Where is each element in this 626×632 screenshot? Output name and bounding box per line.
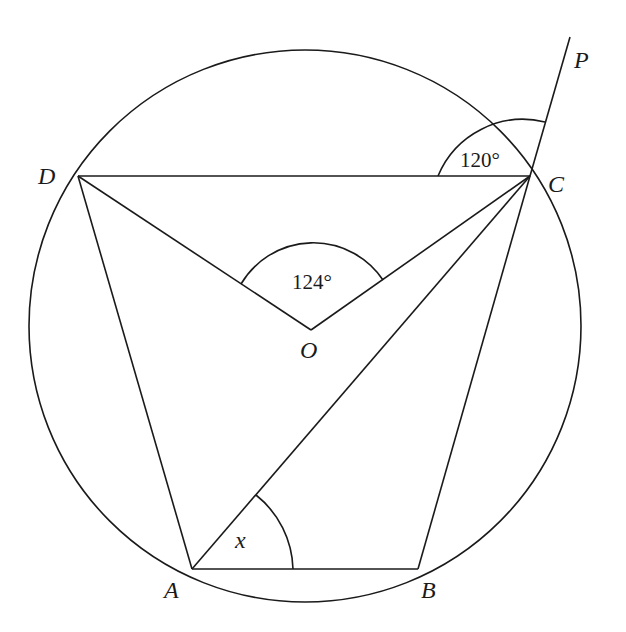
segment-OC bbox=[311, 176, 530, 330]
segment-DA bbox=[78, 176, 192, 569]
label-D: D bbox=[37, 163, 55, 189]
label-O: O bbox=[300, 337, 317, 363]
segment-BC bbox=[418, 176, 530, 569]
angle-arc-CAB bbox=[256, 495, 293, 569]
label-C: C bbox=[548, 171, 565, 197]
label-B: B bbox=[421, 577, 436, 603]
geometry-diagram: P D C O A B 120° 124° x bbox=[0, 0, 626, 632]
label-A: A bbox=[162, 577, 179, 603]
angle-label-DOC: 124° bbox=[292, 270, 332, 294]
line-CP bbox=[530, 37, 570, 176]
label-P: P bbox=[573, 47, 589, 73]
segment-AC bbox=[192, 176, 530, 569]
angle-label-CAB: x bbox=[234, 527, 246, 553]
segment-DO bbox=[78, 176, 311, 330]
angle-label-DCP: 120° bbox=[460, 148, 500, 172]
